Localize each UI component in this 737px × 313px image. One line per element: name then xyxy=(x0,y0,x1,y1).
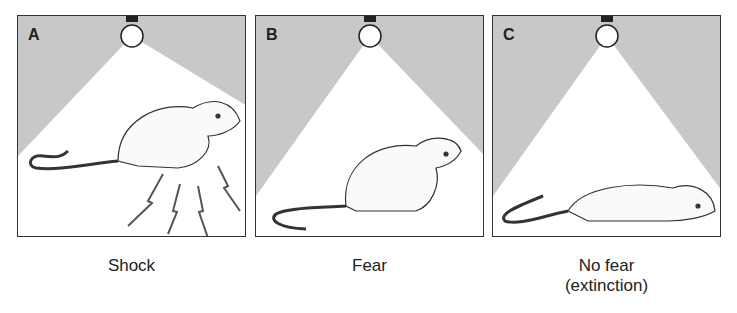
panel-b-fear: B xyxy=(255,15,484,237)
shock-scene-illustration xyxy=(18,16,246,237)
panel-letter: A xyxy=(28,26,40,44)
caption-line: Fear xyxy=(255,256,484,276)
extinction-scene-illustration xyxy=(493,16,721,237)
caption-no-fear: No fear (extinction) xyxy=(492,256,721,296)
panel-c-no-fear: C xyxy=(492,15,721,237)
caption-line-2: (extinction) xyxy=(492,276,721,296)
caption-line: Shock xyxy=(17,256,246,276)
caption-line: No fear xyxy=(492,256,721,276)
fear-scene-illustration xyxy=(256,16,484,237)
caption-fear: Fear xyxy=(255,256,484,276)
panel-letter: C xyxy=(503,26,515,44)
caption-shock: Shock xyxy=(17,256,246,276)
panel-a-shock: A xyxy=(17,15,246,237)
panel-letter: B xyxy=(266,26,278,44)
